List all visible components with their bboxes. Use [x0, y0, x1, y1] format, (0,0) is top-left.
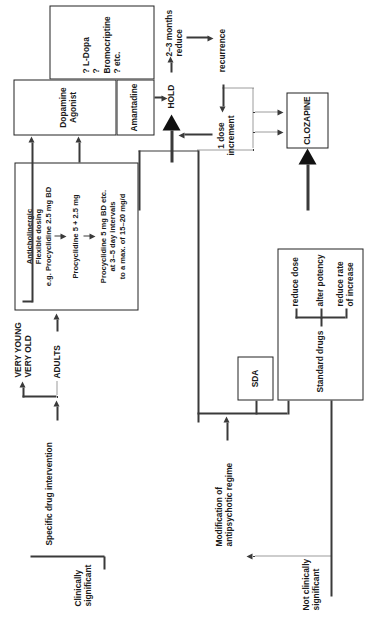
- standard-drugs-option-alter-potency: alter potency: [314, 248, 324, 306]
- amantadine-label: Amantadine: [128, 80, 138, 134]
- line-anticholinergic-feedback-bottom: [197, 150, 199, 422]
- line-anticholinergic-feedback-riser: [138, 150, 198, 152]
- age-very-young-very-old: VERY YOUNG VERY OLD: [12, 305, 33, 377]
- arrowhead-modification-out: [223, 416, 229, 422]
- taper-label: 2–3 months reduce: [163, 2, 184, 56]
- anticholinergic-heading: Anticholinergic Flexible dosing e.g. Pro…: [24, 167, 52, 305]
- standard-drugs-heading: Standard drugs: [314, 320, 324, 392]
- line-clinically-significant-spine: [30, 556, 104, 558]
- line-no-intervention: [330, 368, 332, 596]
- dopamine-agonist-label: Dopamine Agonist: [57, 80, 78, 134]
- standard-drugs-option-reduce-rate: reduce rate of increase: [334, 248, 355, 306]
- entry-clinically-significant: Clinically significant: [72, 536, 93, 606]
- line-to-standard-drugs: [287, 400, 289, 414]
- line-very-young-old-riser: [22, 301, 32, 303]
- sda-label: SDA: [249, 357, 259, 399]
- line-anticholinergic-to-dopamine: [78, 142, 80, 162]
- anticholinergic-step2: Procyclidine 5 + 2.5 mg: [70, 167, 79, 305]
- line-modification-out: [226, 422, 228, 440]
- line-taper-to-recurrence: [186, 37, 208, 39]
- dotted-clozapine-feed-span: [252, 88, 253, 150]
- arrowhead-specific-drug: [53, 400, 59, 406]
- recurrence-label: recurrence: [216, 20, 226, 80]
- line-specific-drug: [56, 406, 58, 420]
- arrowhead-to-modification: [246, 553, 252, 559]
- dotted-line-to-modification: [252, 555, 330, 556]
- line-anticholinergic-feedback-top: [138, 150, 140, 210]
- hold-label: HOLD: [165, 74, 175, 108]
- arrowhead-very-young-old: [19, 381, 25, 387]
- line-to-clozapine-thick: [306, 164, 309, 210]
- line-to-very-young-old: [22, 387, 24, 397]
- branch-modification-label: Modification of antipsychotic regime: [213, 442, 234, 546]
- line-to-sda: [255, 400, 257, 414]
- arrowhead-amantadine-to-hold: [161, 95, 167, 101]
- line-very-young-old-to-dopamine: [31, 142, 33, 302]
- line-standard-option-3-tick: [345, 308, 347, 318]
- arrowhead-anticholinergic-step3: [89, 233, 95, 239]
- standard-drugs-option-reduce-dose: reduce dose: [289, 248, 299, 306]
- line-age-split-spine: [22, 396, 56, 398]
- arrowhead-taper: [167, 56, 173, 62]
- arrowhead-dopamine-from-age: [28, 136, 34, 142]
- line-anticholinergic-to-hold: [170, 130, 173, 162]
- arrowhead-clozapine-in-b: [277, 109, 283, 115]
- line-clinically-significant-tick: [103, 556, 105, 569]
- age-adults: ADULTS: [51, 332, 61, 378]
- anticholinergic-step3: Procyclidine 5 mg BD etc. at 3–5 day int…: [98, 167, 126, 305]
- line-anticholinergic-step2: [54, 235, 61, 237]
- flowchart-stage: Not clinically significant NO INTERVENTI…: [0, 0, 375, 618]
- line-adults-to-anticholinergic: [56, 319, 58, 331]
- dotted-clozapine-in-b: [252, 111, 278, 112]
- arrowhead-clozapine-in-a: [277, 129, 283, 135]
- increment-label: 1 dose increment: [215, 112, 236, 158]
- dotted-line-to-adults: [56, 381, 57, 397]
- arrowhead-hold-thick: [162, 114, 180, 130]
- dotted-clozapine-in-a: [252, 131, 278, 132]
- line-modification-distributor: [197, 413, 287, 415]
- arrowhead-clozapine-thick: [298, 148, 316, 164]
- clozapine-label: CLOZAPINE: [301, 93, 311, 147]
- arrowhead-increment-to-hold: [178, 132, 184, 138]
- arrowhead-adults-to-anticholinergic: [53, 313, 59, 319]
- arrowhead-dopamine-from-anticholinergic: [75, 136, 81, 142]
- other-dopaminergics-label: ? L-Dopa ? Bromocriptine ? etc.: [80, 9, 121, 73]
- flowchart-page: Not clinically significant NO INTERVENTI…: [0, 0, 375, 618]
- arrowhead-recurrence: [207, 35, 213, 41]
- branch-specific-drug-label: Specific drug intervention: [43, 421, 53, 545]
- line-standard-option-2-tick: [320, 308, 322, 318]
- line-increment-to-hold: [184, 134, 212, 136]
- arrowhead-increment: [219, 106, 225, 112]
- entry-not-clinically-significant: Not clinically significant: [300, 536, 321, 610]
- dotted-clozapine-feed-right: [222, 87, 253, 88]
- line-hold-to-taper: [170, 62, 172, 72]
- dotted-clozapine-feed-left: [197, 149, 252, 150]
- line-standard-option-1-tick: [295, 308, 297, 318]
